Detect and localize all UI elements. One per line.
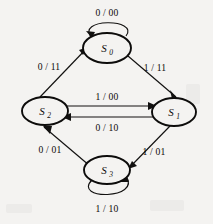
edge-label-s3-to-s2: 0 / 01 bbox=[38, 144, 61, 155]
diagram-canvas: S 0 S 1 S 2 S 3 0 / 00 1 / 11 0 / 11 1 /… bbox=[0, 0, 213, 224]
node-s2[interactable]: S 2 bbox=[22, 97, 68, 125]
node-s2-ellipse[interactable] bbox=[22, 97, 68, 125]
edge-s2-to-s0 bbox=[40, 47, 88, 97]
node-s2-label: S bbox=[39, 105, 45, 117]
edge-label-s1-to-s3: 1 / 01 bbox=[142, 146, 165, 157]
edge-label-s0-to-s1: 1 / 11 bbox=[144, 62, 167, 73]
edge-label-s2-to-s1: 1 / 00 bbox=[95, 91, 118, 102]
edge-label-s0-self: 0 / 00 bbox=[95, 7, 118, 18]
edge-label-s3-self: 1 / 10 bbox=[95, 203, 118, 214]
edge-label-s1-to-s2: 0 / 10 bbox=[95, 122, 118, 133]
state-diagram: S 0 S 1 S 2 S 3 0 / 00 1 / 11 0 / 11 1 /… bbox=[0, 0, 213, 224]
node-s2-subscript: 2 bbox=[47, 111, 51, 120]
edge-s2-to-s0-path bbox=[40, 48, 87, 97]
node-s0-subscript: 0 bbox=[109, 48, 113, 57]
node-s1-ellipse[interactable] bbox=[152, 98, 196, 126]
node-s3-ellipse[interactable] bbox=[84, 156, 130, 184]
node-s0[interactable]: S 0 bbox=[83, 33, 131, 63]
node-s0-ellipse[interactable] bbox=[83, 33, 131, 63]
edge-s1-to-s2 bbox=[62, 113, 155, 121]
edge-label-s2-to-s0: 0 / 11 bbox=[38, 61, 61, 72]
node-s1[interactable]: S 1 bbox=[152, 98, 196, 126]
node-s1-label: S bbox=[168, 106, 174, 118]
node-s0-label: S bbox=[101, 42, 107, 54]
node-s3-label: S bbox=[101, 164, 107, 176]
edge-s2-to-s1 bbox=[62, 102, 157, 110]
node-s3-subscript: 3 bbox=[108, 170, 113, 179]
node-s1-subscript: 1 bbox=[176, 112, 180, 121]
node-s3[interactable]: S 3 bbox=[84, 156, 130, 184]
